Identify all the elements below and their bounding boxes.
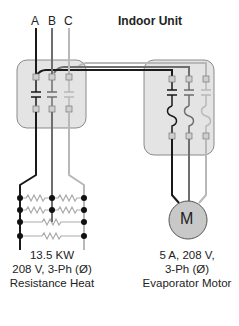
motor-symbol: M bbox=[180, 212, 193, 226]
motor-phase: 3-Ph (Ø) bbox=[132, 262, 239, 276]
phase-label-b: B bbox=[48, 14, 56, 28]
heater-voltage: 208 V, 3-Ph (Ø) bbox=[0, 262, 104, 276]
heater-rating: 13.5 KW bbox=[0, 248, 104, 262]
heater-label: Resistance Heat bbox=[0, 276, 104, 290]
motor-rating: 5 A, 208 V, bbox=[132, 248, 239, 262]
diagram-title: Indoor Unit bbox=[118, 14, 182, 28]
phase-label-a: A bbox=[31, 14, 39, 28]
phase-label-c: C bbox=[64, 14, 73, 28]
motor-caption: 5 A, 208 V, 3-Ph (Ø) Evaporator Motor bbox=[132, 248, 239, 290]
heater-caption: 13.5 KW 208 V, 3-Ph (Ø) Resistance Heat bbox=[0, 248, 104, 290]
motor-label: Evaporator Motor bbox=[132, 276, 239, 290]
